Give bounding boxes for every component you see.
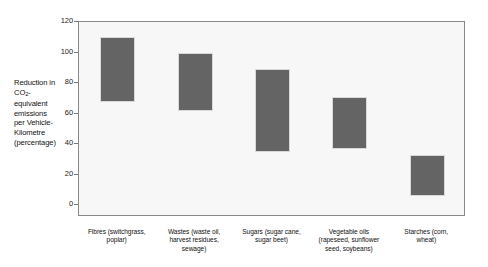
x-axis-label-line: Wastes (waste oil, xyxy=(157,228,230,236)
y-axis-title-line: CO2- xyxy=(14,88,76,100)
x-axis-label-line: Vegetable oils xyxy=(312,228,385,236)
x-axis-label-line: Sugars (sugar cane, xyxy=(235,228,308,236)
y-axis-title-line: per Vehicle- xyxy=(14,118,76,128)
x-axis-label-line: sewage) xyxy=(157,245,230,253)
y-axis-title-line: emissions xyxy=(14,109,76,119)
bar xyxy=(410,155,445,196)
x-axis-label-line: Fibres (switchgrass, xyxy=(80,228,153,236)
y-tick-label: 0 xyxy=(55,200,73,208)
x-axis-label-line: Starches (corn, xyxy=(390,228,463,236)
x-axis-category-label: Starches (corn,wheat) xyxy=(390,228,463,245)
y-axis-title: Reduction in CO2- equivalent emissions p… xyxy=(14,78,76,147)
y-axis-title-line: Reduction in xyxy=(14,78,76,88)
y-axis-title-line: Kilometre xyxy=(14,128,76,138)
x-axis-category-label: Fibres (switchgrass,poplar) xyxy=(80,228,153,245)
x-axis-label-line: seed, soybeans) xyxy=(312,245,385,253)
x-axis-label-line: sugar beet) xyxy=(235,236,308,244)
x-axis-category-label: Wastes (waste oil,harvest residues,sewag… xyxy=(157,228,230,253)
x-axis-label-line: harvest residues, xyxy=(157,236,230,244)
bars-layer xyxy=(79,22,464,215)
bar-chart: 120 100 80 60 40 20 0 Reduction in CO2- … xyxy=(0,0,488,267)
bar xyxy=(178,53,213,112)
x-axis-label-line: wheat) xyxy=(390,236,463,244)
bar xyxy=(100,37,135,102)
y-axis-title-line: equivalent xyxy=(14,99,76,109)
x-axis-labels: Fibres (switchgrass,poplar)Wastes (waste… xyxy=(78,228,465,267)
x-axis-label-line: poplar) xyxy=(80,236,153,244)
subscript-2: 2 xyxy=(25,91,28,97)
bar xyxy=(255,69,290,152)
y-tick-label: 20 xyxy=(55,170,73,178)
x-axis-category-label: Sugars (sugar cane,sugar beet) xyxy=(235,228,308,245)
y-tick-label: 120 xyxy=(55,17,73,25)
y-axis-title-line: (percentage) xyxy=(14,138,76,148)
bar xyxy=(332,97,367,149)
plot-area xyxy=(78,21,465,216)
x-axis-label-line: (rapeseed, sunflower xyxy=(312,236,385,244)
y-tick-label: 100 xyxy=(55,48,73,56)
x-axis-category-label: Vegetable oils(rapeseed, sunflowerseed, … xyxy=(312,228,385,253)
